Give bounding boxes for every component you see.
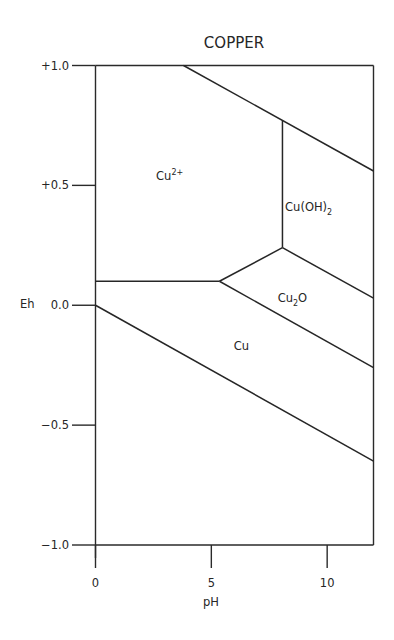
phase-boundary-line [219,281,373,367]
pourbaix-diagram: COPPER +1.0+0.50.0−0.5−1.00510 Cu2+Cu(OH… [0,0,394,640]
phase-boundary-line [219,248,282,282]
region-label: Cu [234,339,249,353]
phase-boundary-line [282,248,373,298]
phase-boundary-line [184,66,374,171]
y-axis-label: Eh [20,297,35,311]
x-tick-label: 5 [208,576,215,590]
axes: +1.0+0.50.0−0.5−1.00510 [41,59,373,591]
y-tick-label: 0.0 [51,298,69,312]
x-tick-label: 0 [92,576,99,590]
region-label: Cu(OH)2 [285,200,332,217]
chart-title: COPPER [204,34,264,52]
region-label: Cu2+ [156,168,183,183]
x-tick-label: 10 [320,576,335,590]
region-label: Cu2O [278,291,307,308]
x-axis-label: pH [203,595,219,609]
y-tick-label: +1.0 [41,59,69,73]
y-tick-label: −1.0 [41,538,69,552]
phase-boundary-line [96,305,374,461]
phase-boundaries [96,66,374,462]
y-tick-label: −0.5 [41,418,69,432]
y-tick-label: +0.5 [41,178,69,192]
